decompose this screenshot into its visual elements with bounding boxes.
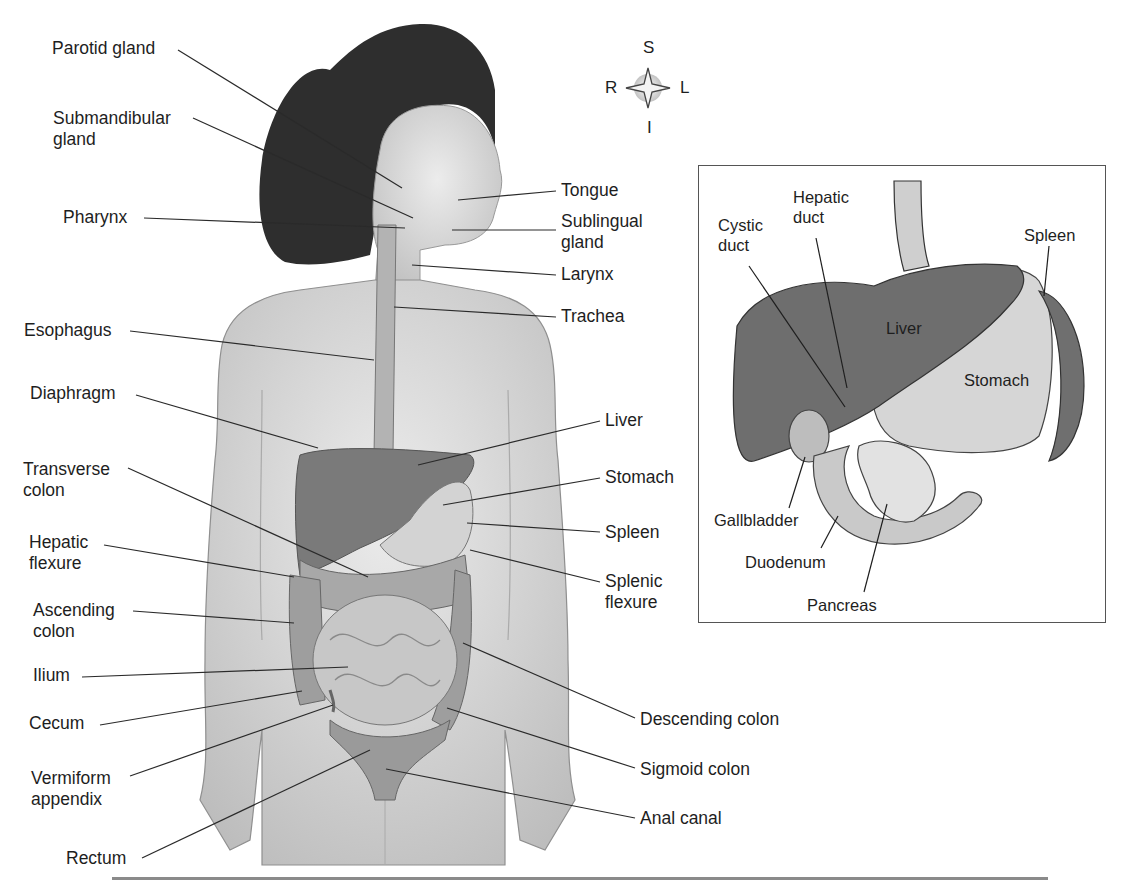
label-descending-colon: Descending colon (640, 709, 779, 730)
label-diaphragm: Diaphragm (30, 383, 116, 404)
anatomy-figure: S I R L Parotid gland Submandibular glan… (0, 0, 1126, 889)
label-sublingual-gland: Sublingual gland (561, 211, 643, 253)
label-stomach: Stomach (605, 467, 674, 488)
label-anal-canal: Anal canal (640, 808, 722, 829)
compass-left: L (680, 78, 689, 98)
inset-panel: Cystic duct Hepatic duct Spleen Liver St… (698, 165, 1106, 623)
label-trachea: Trachea (561, 306, 625, 327)
label-pharynx: Pharynx (63, 207, 127, 228)
label-ascending-colon: Ascending colon (33, 600, 115, 642)
inset-label-stomach: Stomach (964, 370, 1029, 390)
label-liver: Liver (605, 410, 643, 431)
label-transverse-colon: Transverse colon (23, 459, 110, 501)
inset-label-cystic-duct: Cystic duct (718, 215, 763, 255)
inset-label-spleen: Spleen (1024, 225, 1075, 245)
inset-label-duodenum: Duodenum (745, 552, 826, 572)
label-ilium: Ilium (33, 665, 70, 686)
label-tongue: Tongue (561, 180, 618, 201)
inset-label-gallbladder: Gallbladder (714, 510, 798, 530)
inset-pancreas-shape (858, 441, 936, 522)
esophagus-shape (374, 225, 396, 455)
label-cecum: Cecum (29, 713, 84, 734)
inset-label-hepatic-duct: Hepatic duct (793, 187, 849, 227)
inset-label-liver: Liver (886, 318, 922, 338)
label-parotid-gland: Parotid gland (52, 38, 155, 59)
label-rectum: Rectum (66, 848, 126, 869)
compass-inferior: I (647, 118, 652, 138)
label-esophagus: Esophagus (24, 320, 112, 341)
label-submandibular-gland: Submandibular gland (53, 108, 171, 150)
label-larynx: Larynx (561, 264, 614, 285)
compass-superior: S (643, 38, 654, 58)
label-vermiform-appendix: Vermiform appendix (31, 768, 111, 810)
label-hepatic-flexure: Hepatic flexure (29, 532, 88, 574)
label-sigmoid-colon: Sigmoid colon (640, 759, 750, 780)
label-spleen: Spleen (605, 522, 660, 543)
compass-star (626, 68, 670, 108)
compass-right: R (605, 78, 617, 98)
label-splenic-flexure: Splenic flexure (605, 571, 662, 613)
inset-label-pancreas: Pancreas (807, 595, 877, 615)
bottom-rule-divider (112, 877, 1048, 880)
